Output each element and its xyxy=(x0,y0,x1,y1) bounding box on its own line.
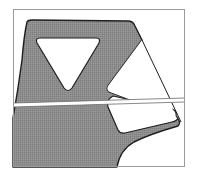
diagram-canvas xyxy=(0,0,200,177)
